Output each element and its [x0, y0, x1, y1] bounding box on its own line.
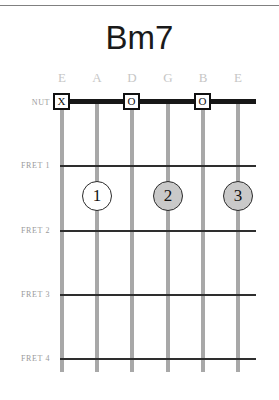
- string-5-b: [201, 99, 205, 372]
- string-1-low-e: [60, 99, 64, 372]
- string-4-g: [166, 99, 170, 372]
- fret-label-fret-1: FRET 1: [4, 161, 50, 171]
- string-label-5: B: [191, 70, 215, 86]
- string-6-high-e: [236, 99, 240, 372]
- nut-line: [60, 99, 256, 104]
- finger-dot-string-4-fret-1: 2: [153, 181, 183, 211]
- fret-line-1: [60, 165, 256, 167]
- finger-dot-string-2-fret-1: 1: [82, 181, 112, 211]
- fret-line-3: [60, 294, 256, 296]
- fret-label-fret-4: FRET 4: [4, 354, 50, 364]
- fret-line-4: [60, 358, 256, 360]
- fret-label-nut: NUT: [4, 98, 50, 108]
- nut-marker-string-3-open: O: [123, 93, 140, 110]
- string-3-d: [130, 99, 134, 372]
- nut-marker-string-5-open: O: [194, 93, 211, 110]
- finger-dot-string-6-fret-1: 3: [223, 181, 253, 211]
- string-label-3: D: [120, 70, 144, 86]
- string-label-4: G: [156, 70, 180, 86]
- top-divider: [0, 5, 279, 6]
- fret-label-fret-3: FRET 3: [4, 290, 50, 300]
- chord-diagram-page: Bm7 E A D G B E NUT FRET 1 FRET 2 FRET 3…: [0, 0, 279, 400]
- fret-line-2: [60, 230, 256, 232]
- chord-title: Bm7: [0, 18, 279, 58]
- string-2-a: [95, 99, 99, 372]
- nut-marker-string-1-muted: X: [53, 93, 70, 110]
- string-label-1: E: [50, 70, 74, 86]
- string-label-2: A: [85, 70, 109, 86]
- fret-label-fret-2: FRET 2: [4, 226, 50, 236]
- string-label-6: E: [226, 70, 250, 86]
